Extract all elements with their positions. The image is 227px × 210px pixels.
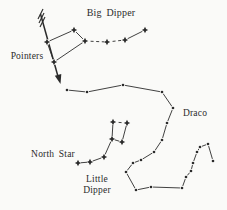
star-marker: [122, 37, 128, 43]
star-marker: [199, 146, 202, 149]
star-marker: [86, 91, 89, 94]
star-marker: [87, 159, 93, 165]
star-marker: [109, 136, 115, 142]
draco-edge: [151, 187, 182, 188]
constellation-diagram: Big Dipper Pointers Draco North Star Lit…: [0, 0, 227, 210]
big-dipper-edge: [54, 41, 85, 62]
draco-edge: [167, 108, 173, 123]
label-pointers: Pointers: [11, 51, 44, 61]
label-big-dipper: Big Dipper: [87, 7, 136, 18]
big-dipper-edge: [85, 41, 107, 42]
star-marker: [161, 91, 164, 94]
star-marker: [196, 151, 199, 154]
star-marker: [142, 27, 148, 33]
star-marker: [104, 39, 110, 45]
draco-edge: [208, 144, 213, 161]
star-marker: [192, 162, 195, 165]
star-marker: [161, 139, 164, 142]
star-marker: [140, 159, 143, 162]
star-marker: [122, 84, 125, 87]
draco-edge: [136, 187, 151, 190]
star-marker: [110, 119, 116, 125]
draco-edge: [123, 85, 162, 92]
draco-edge: [141, 152, 154, 160]
draco-edge: [162, 123, 167, 140]
pointer-arrow: [38, 9, 61, 84]
labels-layer: Big Dipper Pointers Draco North Star Lit…: [11, 7, 208, 195]
star-marker: [135, 189, 138, 192]
draco-edge: [67, 90, 87, 92]
label-north-star: North Star: [31, 149, 75, 159]
star-marker: [185, 176, 188, 179]
label-draco: Draco: [183, 108, 207, 118]
star-marker: [101, 154, 107, 160]
star-marker: [51, 59, 57, 65]
star-marker: [75, 160, 81, 166]
star-marker: [166, 122, 169, 125]
draco-edge: [126, 172, 136, 190]
arrow-shaft: [41, 14, 59, 77]
star-marker: [66, 89, 69, 92]
draco-edge: [162, 92, 173, 108]
star-marker: [172, 107, 175, 110]
draco-edge: [87, 85, 123, 92]
star-marker: [190, 170, 193, 173]
label-little-dipper-line1: Little: [86, 174, 108, 184]
star-marker: [150, 186, 153, 189]
constellation-figure: Big Dipper Pointers Draco North Star Lit…: [0, 0, 227, 210]
star-marker: [132, 162, 135, 165]
big-dipper-edge: [125, 30, 145, 40]
star-marker: [153, 151, 156, 154]
star-marker: [125, 171, 128, 174]
star-marker: [119, 139, 125, 145]
star-marker: [207, 143, 210, 146]
star-marker: [212, 160, 215, 163]
label-little-dipper-line2: Dipper: [83, 185, 111, 195]
star-marker: [181, 187, 184, 190]
star-marker: [124, 120, 130, 126]
big-dipper-edge: [47, 30, 74, 42]
arrow-head: [55, 74, 62, 84]
